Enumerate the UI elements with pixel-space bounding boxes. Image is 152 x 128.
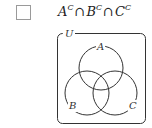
universe-label: U: [65, 28, 74, 39]
set-a-circle: [79, 46, 123, 90]
set-c-label: C: [129, 100, 137, 111]
set-b-label: B: [68, 100, 76, 111]
venn-diagram: U A B C: [0, 0, 152, 128]
set-a-label: A: [96, 41, 104, 52]
